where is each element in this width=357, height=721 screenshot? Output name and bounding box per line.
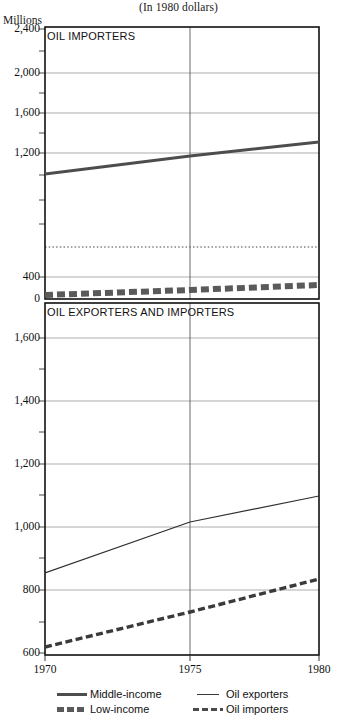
ytick-top-0: 0 (0, 292, 40, 304)
ytick-bottom-1200: 1,200 (0, 457, 40, 469)
legend-item-oil-importers: Oil importers (193, 701, 288, 716)
ytick-top-1200: 1,200 (0, 146, 40, 158)
legend-swatch-oil-importers-icon (193, 704, 223, 714)
figure-container: (In 1980 dollars) Millions (0, 0, 357, 721)
series-oil-exporters (45, 496, 319, 573)
xtick-1980: 1980 (297, 663, 341, 675)
panel-top-gridlines (45, 73, 319, 277)
xtick-1975: 1975 (168, 663, 212, 675)
panel-bottom-gridlines (45, 338, 319, 590)
legend-item-oil-exporters: Oil exporters (193, 686, 288, 701)
series-oil-importers (45, 579, 319, 647)
panel-bottom-axis-ticks (39, 338, 45, 653)
ytick-bottom-600: 600 (0, 646, 40, 658)
ytick-top-2000: 2,000 (0, 66, 40, 78)
panel-heading-oil-importers: OIL IMPORTERS (47, 30, 135, 42)
legend-swatch-low-income-icon (57, 704, 87, 714)
ytick-top-400: 400 (0, 270, 40, 282)
legend-label-low-income: Low-income (90, 703, 149, 715)
ytick-top-1600: 1,600 (0, 106, 40, 118)
x-axis-ticks (45, 655, 319, 661)
panel-heading-oil-exporters-and-importers: OIL EXPORTERS AND IMPORTERS (47, 306, 234, 318)
legend-item-middle-income: Middle-income (57, 686, 162, 701)
legend-label-middle-income: Middle-income (90, 688, 162, 700)
ytick-bottom-1400: 1,400 (0, 394, 40, 406)
series-low-income (45, 285, 319, 295)
ytick-bottom-1000: 1,000 (0, 520, 40, 532)
legend-column-left: Middle-income Low-income (57, 686, 162, 716)
legend-swatch-middle-income-icon (57, 689, 87, 699)
legend-label-oil-exporters: Oil exporters (226, 688, 288, 700)
legend-item-low-income: Low-income (57, 701, 162, 716)
panel-bottom-frame (45, 303, 319, 655)
ytick-bottom-800: 800 (0, 583, 40, 595)
chart-legend: Middle-income Low-income Oil exporters (0, 686, 357, 720)
ytick-bottom-1600: 1,600 (0, 331, 40, 343)
xtick-1970: 1970 (23, 663, 67, 675)
series-middle-income (45, 142, 319, 174)
legend-swatch-oil-exporters-icon (193, 689, 223, 699)
chart-plot-area (0, 0, 357, 721)
legend-label-oil-importers: Oil importers (226, 703, 288, 715)
legend-column-right: Oil exporters Oil importers (193, 686, 288, 716)
ytick-top-2400: 2,400 (0, 22, 40, 34)
panel-top-frame (45, 27, 319, 299)
